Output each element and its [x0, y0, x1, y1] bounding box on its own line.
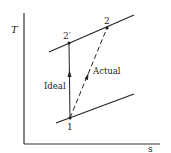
point-2prime-label: 2′ [63, 31, 71, 41]
ideal-path [69, 43, 70, 118]
actual-arrow-icon [85, 73, 89, 80]
low-pressure-line [56, 94, 134, 123]
ts-diagram: T s 1 2′ 2 Ideal Actual [0, 0, 171, 153]
ideal-arrow-icon [68, 70, 72, 77]
point-2prime-marker [67, 41, 70, 44]
ideal-label: Ideal [44, 81, 66, 91]
y-axis-label: T [11, 24, 19, 35]
point-1-marker [68, 116, 71, 119]
actual-label: Actual [92, 66, 121, 76]
point-2-marker [105, 26, 108, 29]
point-2-label: 2 [104, 16, 110, 26]
point-1-label: 1 [67, 122, 73, 132]
high-pressure-line [49, 15, 134, 52]
x-axis-label: s [148, 144, 153, 153]
